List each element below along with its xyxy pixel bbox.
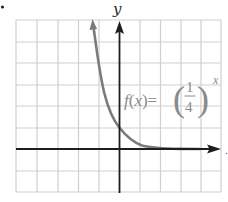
exponential-graph: y . f(x)= ( 1 4 ) x — [0, 0, 228, 202]
right-big-paren: ) — [197, 79, 209, 119]
function-label: f(x)= ( 1 4 ) x — [124, 73, 219, 119]
svg-text:f(x)=: f(x)= — [124, 91, 157, 110]
left-big-paren: ( — [173, 79, 185, 119]
function-equals: )= — [142, 91, 157, 110]
fraction-numerator: 1 — [186, 79, 194, 95]
bullet-dot — [1, 5, 4, 8]
fraction-denominator: 4 — [185, 99, 193, 115]
curve-arrow-icon — [90, 19, 98, 30]
exponent: x — [212, 73, 219, 87]
y-axis-label: y — [112, 0, 122, 18]
x-axis-label-mark: . — [225, 146, 228, 156]
